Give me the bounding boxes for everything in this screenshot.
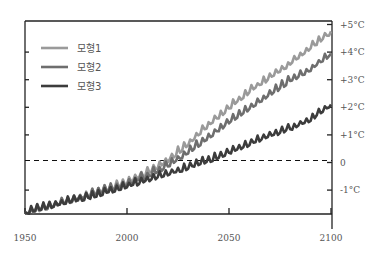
legend-label: 모형3: [77, 81, 101, 92]
y-tick-label: -1°C: [340, 185, 360, 195]
right-axis-ticks: +5°C+4°C+3°C+2°C+1°C0-1°C: [327, 20, 365, 196]
x-axis-ticks: 1950200020502100: [14, 208, 343, 243]
y-tick-label: +4°C: [340, 47, 365, 57]
x-tick-label: 2050: [218, 233, 241, 243]
y-tick-label: +1°C: [340, 130, 365, 140]
y-tick-label: +3°C: [340, 75, 365, 85]
data-series: [25, 31, 331, 213]
x-tick-label: 2000: [116, 233, 139, 243]
series-line-2: [25, 54, 331, 214]
legend-label: 모형1: [77, 43, 101, 54]
plot-frame: [25, 21, 332, 229]
x-tick-label: 1950: [14, 233, 37, 243]
temperature-projection-chart: +5°C+4°C+3°C+2°C+1°C0-1°C 19502000205021…: [0, 0, 383, 257]
y-tick-label: +5°C: [340, 20, 365, 30]
y-tick-label: +2°C: [340, 102, 365, 112]
legend: 모형1모형2모형3: [41, 43, 101, 92]
series-line-1: [25, 31, 331, 213]
y-tick-label: 0: [340, 158, 346, 168]
legend-label: 모형2: [77, 62, 101, 73]
x-tick-label: 2100: [320, 233, 343, 243]
